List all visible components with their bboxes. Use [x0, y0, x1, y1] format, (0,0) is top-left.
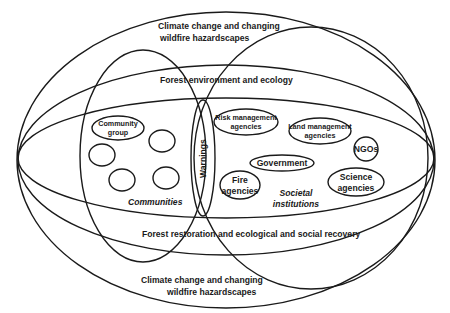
- forest-restoration-label: Forest restoration and ecological and so…: [142, 229, 360, 239]
- risk-management-label-1: Risk management: [215, 113, 277, 122]
- science-agencies-label-1: Science: [340, 172, 373, 182]
- land-management-label-1: Land management: [288, 122, 352, 131]
- science-agencies-label-2: agencies: [338, 183, 375, 193]
- communities-label: Communities: [128, 197, 183, 207]
- societal-institutions-label-2: institutions: [273, 199, 320, 209]
- forest-environment-label: Forest environment and ecology: [160, 75, 293, 85]
- community-circle: [149, 130, 175, 152]
- community-circle: [109, 169, 135, 191]
- climate-change-bottom-label-2: wildfire hazardscapes: [166, 287, 257, 297]
- climate-change-bottom-label-1: Climate change and changing: [141, 275, 263, 285]
- risk-management-label-2: agencies: [231, 122, 262, 131]
- climate-change-top-label-1: Climate change and changing: [158, 21, 280, 31]
- ngos-label: NGOs: [354, 144, 379, 154]
- wildfire-systems-diagram: Climate change and changing wildfire haz…: [0, 0, 450, 313]
- community-group-label-2: group: [108, 128, 129, 137]
- societal-institutions-label-1: Societal: [280, 188, 314, 198]
- community-circle: [153, 167, 179, 189]
- community-group-label-1: Community: [98, 119, 138, 128]
- land-management-label-2: agencies: [305, 131, 336, 140]
- government-label: Government: [257, 158, 308, 168]
- community-circle: [89, 144, 115, 166]
- fire-agencies-label-2: agencies: [222, 186, 259, 196]
- climate-change-top-label-2: wildfire hazardscapes: [159, 33, 250, 43]
- warnings-label: Warnings: [198, 139, 208, 178]
- fire-agencies-label-1: Fire: [232, 175, 248, 185]
